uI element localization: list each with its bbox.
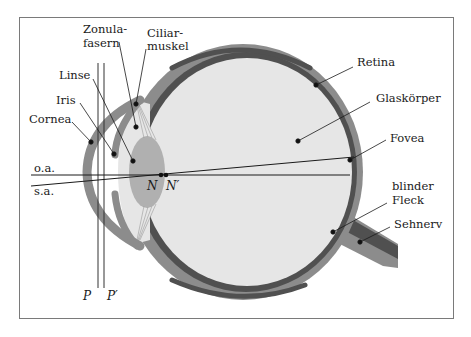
nodal-point-N-prime <box>164 173 169 178</box>
label-cornea: Cornea <box>29 112 71 126</box>
label-zonulafasern-1: Zonula- <box>83 22 127 36</box>
label-blinder-fleck-1: blinder <box>392 179 434 193</box>
label-linse: Linse <box>59 68 91 82</box>
label-nodal-N-prime: N′ <box>165 179 180 193</box>
label-glaskoerper: Glaskörper <box>376 91 441 105</box>
label-blinder-fleck-2: Fleck <box>392 193 425 207</box>
label-ciliarmuskel-1: Ciliar- <box>147 26 183 40</box>
label-zonulafasern-2: fasern <box>83 36 120 50</box>
label-sehnerv: Sehnerv <box>394 217 443 231</box>
label-ciliarmuskel-2: muskel <box>147 39 189 53</box>
label-principal-P: P <box>82 289 92 303</box>
label-fovea: Fovea <box>390 131 425 145</box>
nodal-point-N <box>159 173 164 178</box>
label-visual-axis: s.a. <box>34 184 54 198</box>
label-nodal-N: N <box>146 179 158 193</box>
label-retina: Retina <box>357 55 395 69</box>
eye-diagram: Zonula- fasern Ciliar- muskel Linse Iris… <box>0 0 471 337</box>
label-optical-axis: o.a. <box>34 161 55 175</box>
label-principal-P-prime: P′ <box>106 289 118 303</box>
label-iris: Iris <box>56 93 76 107</box>
lens <box>129 136 165 208</box>
